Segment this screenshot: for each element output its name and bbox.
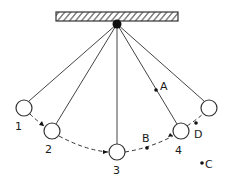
- position-label-3: 3: [113, 164, 120, 177]
- string-1: [29, 24, 117, 101]
- bob-position-1: [16, 100, 32, 116]
- string-4: [117, 24, 177, 124]
- point-label-b: B: [142, 132, 150, 145]
- arrow-icon: [103, 150, 108, 154]
- position-labels: 1 2 3 4: [15, 120, 182, 177]
- pendulum-diagram: 1 2 3 4 A B C D: [0, 0, 231, 184]
- bob-position-2: [44, 123, 60, 139]
- arrow-icon: [39, 121, 44, 126]
- point-label-a: A: [160, 80, 168, 93]
- bob-position-5: [201, 100, 217, 116]
- bob-position-3: [109, 144, 125, 160]
- point-label-d: D: [194, 128, 202, 141]
- point-d-dot: [194, 121, 198, 125]
- position-label-4: 4: [175, 144, 182, 157]
- position-label-2: 2: [45, 143, 52, 156]
- bob-position-4: [173, 123, 189, 139]
- pivot-point: [113, 20, 122, 29]
- string-2: [56, 24, 117, 124]
- point-c-dot: [200, 161, 204, 165]
- position-label-1: 1: [15, 120, 22, 133]
- point-label-c: C: [205, 158, 213, 171]
- point-b-dot: [145, 146, 149, 150]
- arrowheads: [39, 121, 173, 154]
- point-a-dot: [154, 88, 158, 92]
